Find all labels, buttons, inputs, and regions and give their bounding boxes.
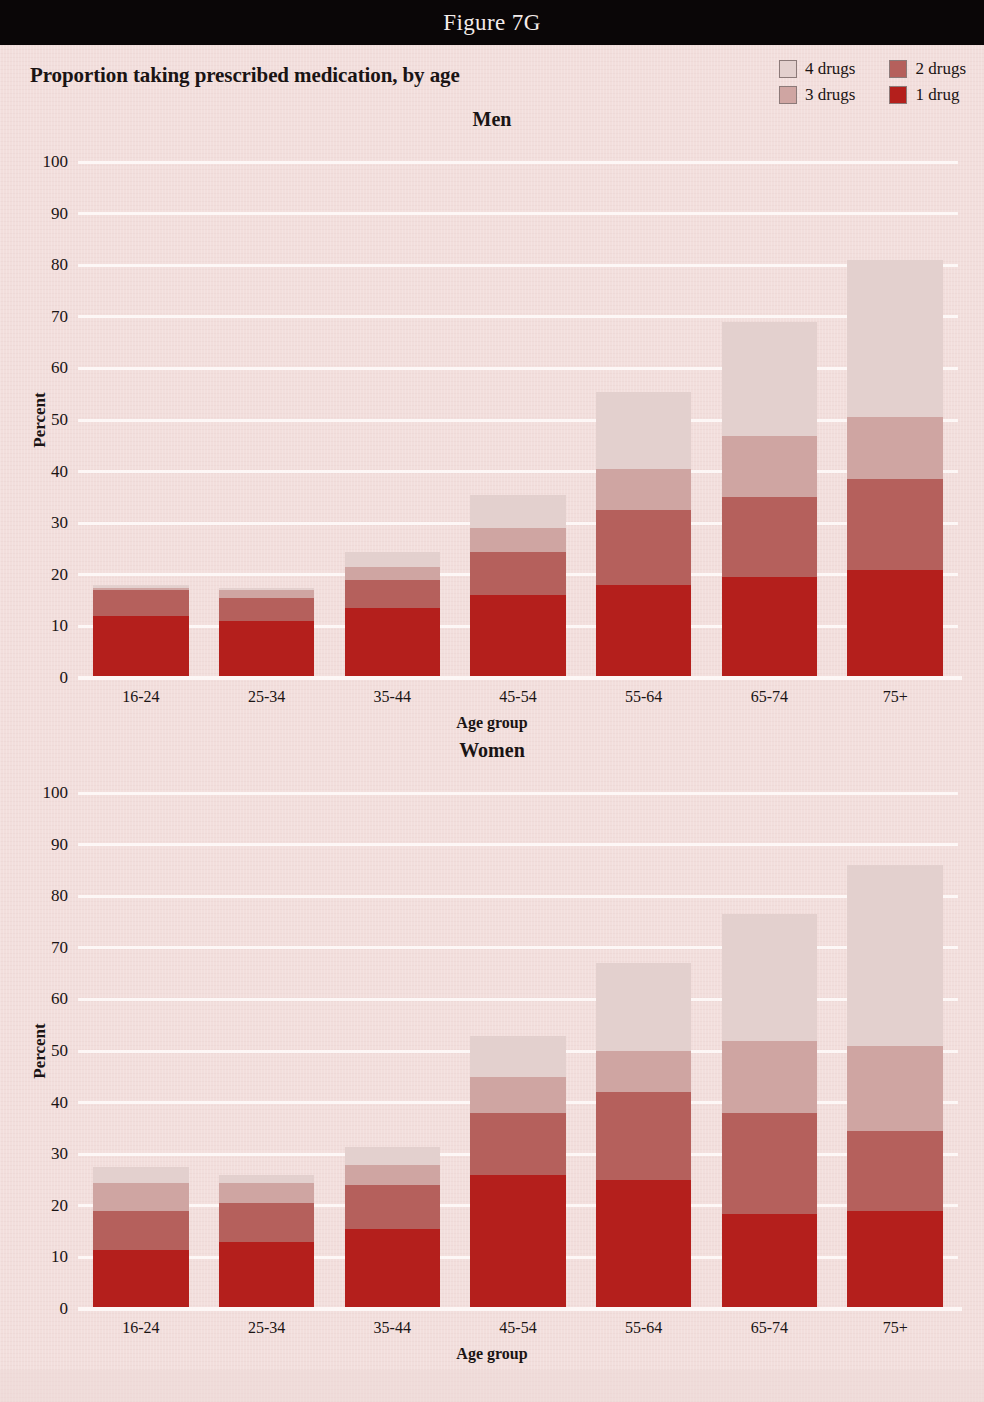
bar-segment-1-drug [470,595,566,678]
bar-segment-2-drugs [596,1092,692,1180]
legend-label-1-drug: 1 drug [915,85,959,105]
bar-segment-3-drugs [722,436,818,498]
bar-segment-4-drugs [847,865,943,1046]
y-axis-tick-label: 80 [12,886,68,906]
bar-45-54[interactable] [470,495,566,678]
page-bottom-edge [0,1370,984,1402]
y-axis-tick-label: 40 [12,462,68,482]
bar-75+[interactable] [847,260,943,678]
bar-segment-2-drugs [93,1211,189,1250]
bar-segment-1-drug [847,570,943,678]
legend-swatch-3-drugs [779,86,797,104]
bar-16-24[interactable] [93,585,189,678]
bar-35-44[interactable] [345,552,441,678]
figure-sheet: Proportion taking prescribed medication,… [0,45,984,1402]
y-axis-tick-label: 40 [12,1093,68,1113]
bar-segment-3-drugs [219,1183,315,1204]
legend-item-4-drugs[interactable]: 4 drugs [779,59,856,79]
y-axis-tick-label: 100 [12,783,68,803]
y-axis-tick-label: 60 [12,358,68,378]
bar-segment-2-drugs [722,1113,818,1214]
bar-segment-4-drugs [219,1175,315,1183]
x-axis-line [78,676,962,680]
legend-item-2-drugs[interactable]: 2 drugs [889,59,966,79]
bar-segment-2-drugs [93,590,189,616]
legend-item-3-drugs[interactable]: 3 drugs [779,85,856,105]
y-axis-tick-label: 20 [12,1196,68,1216]
y-gridline [78,212,958,215]
bar-segment-3-drugs [93,1183,189,1211]
x-axis-title: Age group [0,714,984,732]
y-gridline [78,264,958,267]
x-axis-tick-label: 25-34 [248,688,285,706]
y-gridline [78,895,958,898]
x-axis-tick-label: 25-34 [248,1319,285,1337]
bar-segment-1-drug [345,1229,441,1309]
y-axis-tick-label: 10 [12,616,68,636]
bar-25-34[interactable] [219,1175,315,1309]
bar-segment-3-drugs [847,417,943,479]
y-gridline [78,161,958,164]
y-gridline [78,470,958,473]
bar-segment-1-drug [345,608,441,678]
y-axis-title: Percent [30,1023,50,1078]
y-gridline [78,367,958,370]
bar-segment-2-drugs [847,1131,943,1211]
bar-45-54[interactable] [470,1036,566,1309]
bar-25-34[interactable] [219,588,315,678]
bar-segment-1-drug [219,621,315,678]
bar-segment-2-drugs [345,1185,441,1229]
y-axis-tick-label: 10 [12,1247,68,1267]
bar-segment-3-drugs [345,567,441,580]
panel-title-women: Women [0,739,984,762]
y-axis-tick-label: 80 [12,255,68,275]
bar-segment-1-drug [219,1242,315,1309]
y-axis-tick-label: 70 [12,307,68,327]
x-axis-tick-label: 65-74 [751,688,788,706]
bar-segment-2-drugs [596,510,692,585]
bar-segment-2-drugs [345,580,441,608]
bar-segment-2-drugs [219,598,315,621]
y-gridline [78,843,958,846]
legend-item-1-drug[interactable]: 1 drug [889,85,966,105]
y-axis-tick-label: 90 [12,204,68,224]
y-gridline [78,946,958,949]
x-axis-tick-label: 35-44 [374,1319,411,1337]
y-axis-tick-label: 30 [12,1144,68,1164]
panel-title-men: Men [0,108,984,131]
y-axis-tick-label: 70 [12,938,68,958]
bar-segment-4-drugs [847,260,943,417]
bar-segment-2-drugs [470,1113,566,1175]
bar-segment-1-drug [722,577,818,678]
bar-segment-3-drugs [470,1077,566,1113]
x-axis-tick-label: 16-24 [122,1319,159,1337]
bar-65-74[interactable] [722,322,818,678]
bar-35-44[interactable] [345,1147,441,1310]
bar-segment-3-drugs [219,590,315,598]
y-axis-tick-label: 0 [12,668,68,688]
bar-55-64[interactable] [596,963,692,1309]
bar-16-24[interactable] [93,1167,189,1309]
bar-75+[interactable] [847,865,943,1309]
x-axis-tick-label: 75+ [883,1319,908,1337]
bar-segment-3-drugs [722,1041,818,1113]
x-axis-tick-label: 75+ [883,688,908,706]
legend-swatch-4-drugs [779,60,797,78]
bar-65-74[interactable] [722,914,818,1309]
y-gridline [78,792,958,795]
y-axis-title: Percent [30,392,50,447]
x-axis-title: Age group [0,1345,984,1363]
x-axis-tick-label: 45-54 [499,688,536,706]
bar-segment-2-drugs [219,1203,315,1242]
y-axis-tick-label: 0 [12,1299,68,1319]
bar-segment-4-drugs [93,1167,189,1182]
bar-55-64[interactable] [596,392,692,678]
legend-swatch-2-drugs [889,60,907,78]
bar-segment-1-drug [722,1214,818,1309]
y-gridline [78,998,958,1001]
page-title: Proportion taking prescribed medication,… [30,63,460,88]
legend-label-3-drugs: 3 drugs [805,85,856,105]
bar-segment-4-drugs [722,322,818,436]
bar-segment-1-drug [93,616,189,678]
x-axis-tick-label: 55-64 [625,1319,662,1337]
